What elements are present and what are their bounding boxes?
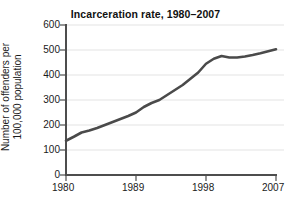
x-tick-label-2007: 2007	[262, 182, 284, 193]
x-axis-tick-labels: 1980 1989 1998 2007	[0, 182, 291, 198]
gridlines	[66, 25, 284, 150]
chart-figure: Incarceration rate, 1980–2007 Number of …	[0, 0, 291, 211]
x-tick-label-1989: 1989	[122, 182, 144, 193]
data-series-line	[66, 49, 276, 141]
x-tick-label-1980: 1980	[52, 182, 74, 193]
plot-area	[0, 0, 291, 211]
x-tick-label-1998: 1998	[192, 182, 214, 193]
